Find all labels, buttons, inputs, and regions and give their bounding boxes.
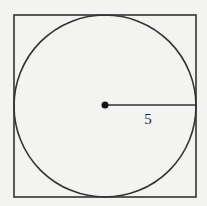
center-point: [102, 102, 109, 109]
inscribed-circle-diagram: 5: [0, 0, 207, 206]
radius-label: 5: [144, 111, 152, 127]
